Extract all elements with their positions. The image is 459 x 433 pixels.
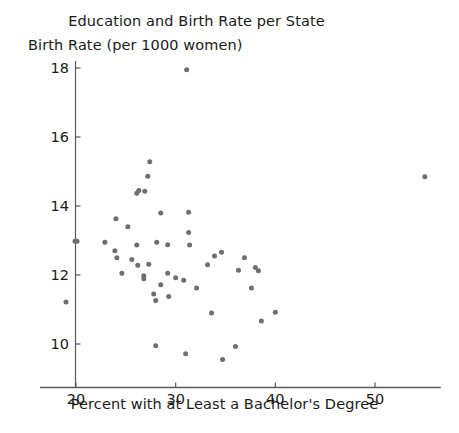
axis-ticks-group	[76, 68, 376, 388]
x-axis-label: Percent with at Least a Bachelor's Degre…	[0, 396, 459, 412]
data-point	[154, 240, 159, 245]
data-point	[181, 278, 186, 283]
data-point	[113, 216, 118, 221]
data-point	[112, 248, 117, 253]
data-point	[173, 275, 178, 280]
data-point	[158, 210, 163, 215]
data-point	[249, 286, 254, 291]
data-point	[147, 159, 152, 164]
data-point	[125, 224, 130, 229]
plot-area: 101214161820304050	[0, 0, 459, 433]
data-point	[194, 286, 199, 291]
data-point	[242, 255, 247, 260]
data-point	[219, 250, 224, 255]
data-point	[187, 242, 192, 247]
axis-tick-labels-group: 101214161820304050	[51, 60, 385, 407]
data-point	[186, 230, 191, 235]
data-point	[141, 276, 146, 281]
data-point	[236, 268, 241, 273]
data-point	[273, 310, 278, 315]
data-point	[212, 254, 217, 259]
data-point	[256, 268, 261, 273]
data-point	[184, 67, 189, 72]
y-tick-label-12: 12	[51, 267, 69, 283]
data-point	[183, 351, 188, 356]
data-point	[75, 239, 80, 244]
data-point	[186, 210, 191, 215]
data-point	[422, 174, 427, 179]
data-point	[119, 271, 124, 276]
data-point	[151, 291, 156, 296]
data-point	[209, 310, 214, 315]
data-point	[233, 344, 238, 349]
y-tick-label-10: 10	[51, 336, 69, 352]
data-point	[153, 298, 158, 303]
y-tick-label-16: 16	[51, 129, 69, 145]
data-point	[134, 191, 139, 196]
data-point	[146, 262, 151, 267]
data-point	[166, 294, 171, 299]
axes-group	[40, 61, 441, 387]
y-tick-label-14: 14	[51, 198, 69, 214]
data-point	[142, 189, 147, 194]
data-point	[145, 174, 150, 179]
data-point	[114, 255, 119, 260]
data-point	[220, 357, 225, 362]
data-point	[102, 240, 107, 245]
data-point	[259, 318, 264, 323]
data-point	[165, 271, 170, 276]
data-point	[129, 257, 134, 262]
data-points-group	[64, 67, 428, 362]
data-point	[158, 282, 163, 287]
data-point	[64, 299, 69, 304]
data-point	[205, 262, 210, 267]
y-tick-label-18: 18	[51, 60, 69, 76]
data-point	[135, 263, 140, 268]
data-point	[153, 343, 158, 348]
scatter-chart-figure: Education and Birth Rate per State Birth…	[0, 0, 459, 433]
data-point	[134, 242, 139, 247]
data-point	[165, 242, 170, 247]
